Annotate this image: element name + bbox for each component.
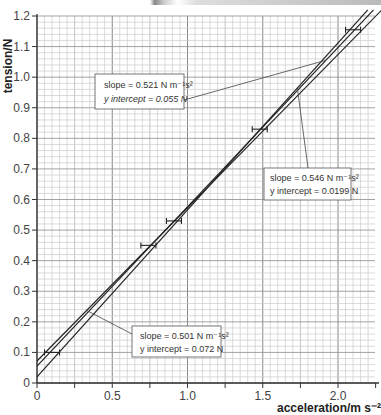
y-tick-label: 0.2	[13, 315, 30, 329]
y-axis-title: tension/N	[1, 39, 15, 94]
y-tick-label: 0.5	[13, 223, 30, 237]
x-tick-label: 0.5	[104, 389, 121, 403]
annotation-3-intercept: y intercept = 0.072 N	[140, 344, 223, 354]
annotation-2-intercept: y intercept = 0.0199 N	[270, 186, 358, 196]
y-tick-label: 0.3	[13, 284, 30, 298]
x-tick-label: 1.0	[179, 389, 196, 403]
y-tick-label: 0.1	[13, 345, 30, 359]
x-tick-label: 0	[34, 389, 41, 403]
y-tick-label: 1.2	[13, 9, 30, 23]
annotation-box-2: slope = 0.546 N m⁻¹s² y intercept = 0.01…	[264, 88, 359, 200]
annotation-2-slope: slope = 0.546 N m⁻¹s²	[270, 173, 359, 183]
y-tick-label: 0.6	[13, 193, 30, 207]
y-tick-label: 0	[23, 376, 30, 390]
x-tick-label: 1.5	[254, 389, 271, 403]
y-tick-label: 0.9	[13, 101, 30, 115]
y-tick-label: 0.4	[13, 254, 30, 268]
y-tick-label: 1.1	[13, 40, 30, 54]
y-tick-label: 1.0	[13, 70, 30, 84]
leader-line-2	[297, 88, 308, 168]
y-tick-label: 0.8	[13, 131, 30, 145]
annotation-1-intercept: y intercept = 0.055 N	[103, 94, 188, 104]
chart: 00.10.20.30.40.50.60.70.80.91.01.11.200.…	[0, 0, 381, 415]
annotation-3-slope: slope = 0.501 N m⁻¹s²	[140, 331, 229, 341]
annotation-1-slope: slope = 0.521 N m⁻¹s²	[104, 80, 193, 90]
y-tick-label: 0.7	[13, 162, 30, 176]
x-axis-title: acceleration/m s⁻²	[277, 401, 381, 415]
